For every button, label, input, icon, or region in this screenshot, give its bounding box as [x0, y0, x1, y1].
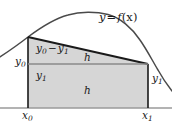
- y1-right-sub: 1: [158, 77, 163, 86]
- difference-b-sub: 1: [64, 47, 69, 56]
- x0-label: x0: [22, 110, 33, 121]
- x0-sub: 0: [28, 114, 33, 123]
- curve-arg: (x): [122, 10, 138, 24]
- x1-label: x1: [142, 110, 153, 121]
- y0-sub: 0: [21, 60, 26, 69]
- difference-b: y: [58, 42, 64, 54]
- curve-lhs: y: [99, 10, 106, 24]
- trapezoid-rule-figure: y=f(x) y0−y1 y0 y1 y1 h h x0 x1: [0, 0, 172, 126]
- y1-inner-sub: 1: [42, 74, 47, 83]
- difference-minus: −: [47, 42, 58, 54]
- curve-equals: =: [106, 10, 118, 24]
- y1-inner-label: y1: [36, 70, 47, 81]
- x1-sub: 1: [148, 114, 153, 123]
- h-upper-label: h: [84, 52, 91, 63]
- difference-a-sub: 0: [42, 47, 47, 56]
- curve-equation-label: y=f(x): [99, 12, 137, 24]
- y1-right-label: y1: [152, 73, 163, 84]
- h-lower-label: h: [84, 85, 91, 96]
- y0-label: y0: [15, 56, 26, 67]
- difference-label: y0−y1: [36, 43, 69, 54]
